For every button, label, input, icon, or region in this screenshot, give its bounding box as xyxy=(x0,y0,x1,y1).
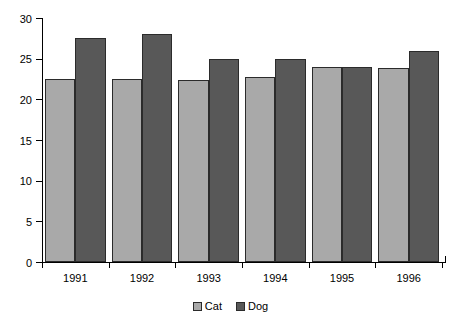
bar-cat-1995 xyxy=(312,67,342,262)
x-axis-tick xyxy=(109,262,110,268)
y-axis-tick-label: 20 xyxy=(20,94,32,105)
x-axis-tick xyxy=(242,262,243,268)
bar-cat-1993 xyxy=(178,80,208,262)
bar-dog-1996 xyxy=(409,51,439,262)
chart-legend: CatDog xyxy=(0,300,461,312)
bar-dog-1994 xyxy=(275,59,305,262)
x-axis-tick-label: 1991 xyxy=(63,272,87,284)
x-axis-tick-label: 1996 xyxy=(396,272,420,284)
legend-entry-cat[interactable]: Cat xyxy=(193,300,222,312)
legend-label: Cat xyxy=(205,300,222,312)
bar-cat-1994 xyxy=(245,77,275,262)
x-axis-tick-label: 1992 xyxy=(130,272,154,284)
x-axis-tick-label: 1995 xyxy=(330,272,354,284)
legend-swatch-dog-icon xyxy=(236,302,245,311)
y-axis-tick-label: 10 xyxy=(20,176,32,187)
legend-label: Dog xyxy=(248,300,268,312)
x-axis-tick xyxy=(442,262,443,268)
x-axis-tick-label: 1993 xyxy=(196,272,220,284)
bar-dog-1992 xyxy=(142,34,172,262)
y-axis-tick-label: 0 xyxy=(26,257,32,268)
bar-cat-1992 xyxy=(112,79,142,262)
y-axis-tick-label: 30 xyxy=(20,13,32,24)
y-axis-tick-label: 25 xyxy=(20,54,32,65)
bar-dog-1991 xyxy=(75,38,105,262)
x-axis-tick-label: 1994 xyxy=(263,272,287,284)
plot-area xyxy=(42,18,442,262)
x-axis-tick xyxy=(42,262,43,268)
x-axis-tick xyxy=(175,262,176,268)
y-axis-tick-label: 15 xyxy=(20,135,32,146)
legend-swatch-cat-icon xyxy=(193,302,202,311)
x-axis-tick xyxy=(375,262,376,268)
bar-cat-1991 xyxy=(45,79,75,262)
bar-dog-1993 xyxy=(209,59,239,262)
x-axis-tick xyxy=(309,262,310,268)
bar-cat-1996 xyxy=(378,68,408,262)
bar-dog-1995 xyxy=(342,67,372,262)
x-axis-line xyxy=(36,262,446,263)
bar-chart: 051015202530 199119921993199419951996 Ca… xyxy=(0,0,461,330)
x-axis-right-cap xyxy=(445,256,446,263)
y-axis-tick-label: 5 xyxy=(26,216,32,227)
legend-entry-dog[interactable]: Dog xyxy=(236,300,268,312)
